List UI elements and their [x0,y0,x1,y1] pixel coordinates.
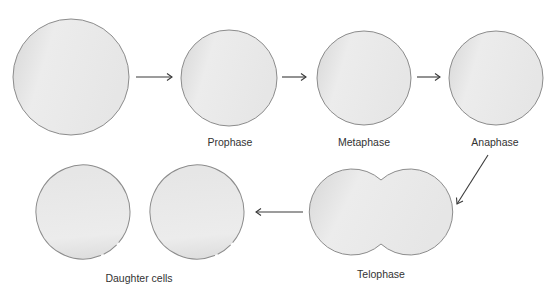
daughter-cell-1 [22,151,144,273]
prophase-cell [181,30,277,126]
daughter-cells-stage: Daughter cells [22,151,258,284]
arrow-metaphase-to-anaphase [417,74,440,81]
telophase-cell [309,169,452,255]
anaphase-stage: Anaphase [449,31,543,148]
telophase-stage: Telophase [309,169,452,280]
telophase-label: Telophase [357,268,405,280]
cell-division-diagram: Prophase Metaphase Anaphase [0,0,554,288]
prophase-label: Prophase [208,136,253,148]
metaphase-label: Metaphase [338,136,390,148]
daughter-cells-label: Daughter cells [105,272,172,284]
arrow-parent-to-prophase [136,74,172,81]
prophase-stage: Prophase [181,30,277,148]
arrow-prophase-to-metaphase [282,74,306,81]
anaphase-cell [449,31,543,125]
parent-cell [13,19,129,135]
arrow-anaphase-to-telophase [457,155,489,204]
metaphase-cell [317,31,411,125]
metaphase-stage: Metaphase [317,31,411,148]
arrowhead-down-left-icon [457,198,464,205]
anaphase-label: Anaphase [471,136,518,148]
parent-cell-membrane [13,19,129,135]
arrow-telophase-to-daughter-cells [256,209,303,216]
daughter-cell-2 [136,151,258,273]
